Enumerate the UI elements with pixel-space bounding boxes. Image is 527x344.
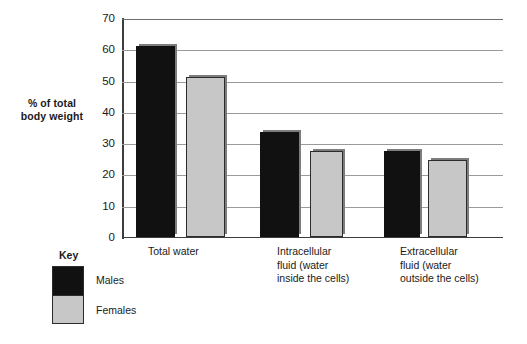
x-category-label-intracellular-line-2: fluid (water	[277, 259, 387, 273]
y-tick-label-30: 30	[102, 138, 115, 150]
gridline-60: 60	[122, 50, 503, 51]
legend-swatch-group	[52, 266, 84, 324]
legend-swatch-males	[53, 267, 83, 295]
gridline-70: 70	[122, 19, 503, 20]
bar-intracellular-females	[310, 151, 343, 237]
x-category-label-intracellular-line-3: inside the cells)	[277, 272, 387, 286]
y-axis-title: % of total body weight	[8, 97, 96, 123]
bar-extracellular-females	[428, 160, 467, 237]
bar-total-water-males	[136, 46, 175, 237]
legend-title: Key	[59, 249, 192, 261]
x-category-label-intracellular: Intracellular fluid (water inside the ce…	[277, 245, 387, 286]
chart-legend: Key Males Females	[52, 249, 192, 264]
x-category-label-extracellular-line-3: outside the cells)	[400, 272, 520, 286]
bar-intracellular-males	[260, 132, 299, 237]
gridline-50: 50	[122, 82, 503, 83]
legend-swatch-females	[53, 295, 83, 323]
legend-label-females: Females	[96, 304, 136, 316]
x-category-label-extracellular-line-2: fluid (water	[400, 259, 520, 273]
y-tick-label-50: 50	[102, 76, 115, 88]
x-category-label-extracellular: Extracellular fluid (water outside the c…	[400, 245, 520, 286]
y-tick-label-20: 20	[102, 170, 115, 182]
y-tick-label-70: 70	[102, 13, 115, 25]
bar-total-water-females	[186, 77, 225, 237]
y-tick-label-40: 40	[102, 107, 115, 119]
x-category-label-extracellular-line-1: Extracellular	[400, 245, 520, 259]
y-axis-title-line-1: % of total	[8, 97, 96, 110]
x-category-label-intracellular-line-1: Intracellular	[277, 245, 387, 259]
gridline-0: 0	[122, 238, 503, 239]
y-tick-label-0: 0	[109, 232, 115, 244]
y-axis-title-line-2: body weight	[8, 110, 96, 123]
gridline-40: 40	[122, 113, 503, 114]
bar-extracellular-males	[384, 151, 420, 237]
chart-plot-area: 70 60 50 40 30 20 10 0	[122, 19, 503, 238]
legend-label-males: Males	[96, 274, 124, 286]
y-tick-label-10: 10	[102, 201, 115, 213]
gridline-30: 30	[122, 144, 503, 145]
y-tick-label-60: 60	[102, 45, 115, 57]
